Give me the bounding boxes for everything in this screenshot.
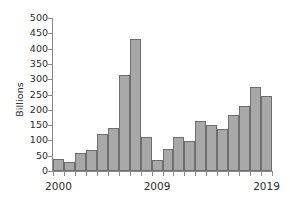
y-axis-tick-mark xyxy=(48,79,52,80)
x-axis-tick-mark xyxy=(173,172,174,176)
bar xyxy=(64,162,75,171)
x-axis-tick-mark xyxy=(75,172,76,176)
bar xyxy=(108,128,119,171)
x-axis-tick-mark xyxy=(119,172,120,176)
x-axis-tick-mark xyxy=(141,172,142,176)
y-axis-tick-mark xyxy=(48,64,52,65)
y-axis-tick-label: 250 xyxy=(26,90,48,100)
bar-chart-figure: Billions 050100150200250300350400450500 … xyxy=(0,0,290,206)
x-axis-tick-mark xyxy=(239,172,240,176)
x-axis-tick-mark xyxy=(97,172,98,176)
y-axis-tick-mark xyxy=(48,110,52,111)
y-axis-tick-label: 300 xyxy=(26,74,48,84)
y-axis-tick-label: 450 xyxy=(26,29,48,39)
bar xyxy=(217,129,228,171)
y-axis-tick-labels: 050100150200250300350400450500 xyxy=(26,0,48,206)
x-axis-tick-labels: 200020092019 xyxy=(52,180,277,196)
x-axis-tick-label: 2019 xyxy=(253,180,280,192)
bar xyxy=(130,39,141,171)
x-axis-tick-mark xyxy=(163,172,164,176)
bar xyxy=(75,153,86,171)
bar xyxy=(53,159,64,171)
x-axis-tick-mark xyxy=(228,172,229,176)
x-axis-tick-mark xyxy=(53,172,54,176)
y-axis-tick-label: 50 xyxy=(26,151,48,161)
y-axis-tick-label: 350 xyxy=(26,59,48,69)
x-axis-tick-mark xyxy=(272,172,273,176)
y-axis-tick-label: 0 xyxy=(26,166,48,176)
bar xyxy=(97,134,108,171)
y-axis-tick-mark xyxy=(48,125,52,126)
y-axis-tick-mark xyxy=(48,95,52,96)
bar xyxy=(261,96,272,171)
x-axis-tick-mark xyxy=(184,172,185,176)
x-axis-tick-mark xyxy=(261,172,262,176)
bar xyxy=(250,87,261,171)
y-axis-tick-label: 200 xyxy=(26,105,48,115)
x-axis-tick-mark xyxy=(195,172,196,176)
x-axis-tick-mark xyxy=(130,172,131,176)
x-axis-tick-label: 2000 xyxy=(45,180,72,192)
bar xyxy=(173,137,184,171)
bar xyxy=(119,75,130,171)
y-axis-tick-mark xyxy=(48,18,52,19)
y-axis-tick-mark xyxy=(48,33,52,34)
x-axis-tick-mark xyxy=(250,172,251,176)
y-axis-tick-label: 100 xyxy=(26,136,48,146)
x-axis-tick-mark xyxy=(86,172,87,176)
y-axis-tick-label: 500 xyxy=(26,13,48,23)
x-axis-tick-mark xyxy=(64,172,65,176)
bar xyxy=(195,121,206,171)
y-axis-title-text: Billions xyxy=(14,82,25,117)
bar xyxy=(86,150,97,171)
bar xyxy=(141,137,152,171)
y-axis-tick-mark xyxy=(48,171,52,172)
y-axis-tick-mark xyxy=(48,140,52,141)
x-axis-tick-label: 2009 xyxy=(144,180,171,192)
bar xyxy=(184,141,195,171)
y-axis-tick-mark xyxy=(48,49,52,50)
y-axis-tick-mark xyxy=(48,156,52,157)
plot-area xyxy=(52,18,272,172)
bar xyxy=(228,115,239,171)
x-axis-tick-mark xyxy=(108,172,109,176)
x-axis-tick-mark xyxy=(206,172,207,176)
x-axis-tick-mark xyxy=(217,172,218,176)
bar xyxy=(152,160,163,171)
y-axis-tick-label: 150 xyxy=(26,120,48,130)
bar-series xyxy=(53,18,272,171)
bar xyxy=(239,106,250,171)
bar xyxy=(206,125,217,172)
bar xyxy=(163,149,174,171)
x-axis-tick-mark xyxy=(152,172,153,176)
y-axis-tick-label: 400 xyxy=(26,44,48,54)
